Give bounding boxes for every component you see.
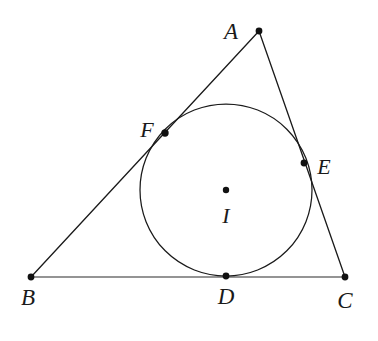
tangent-points	[161, 129, 307, 279]
triangle-sides	[31, 31, 345, 277]
point-b-dot	[28, 274, 35, 281]
label-f: F	[140, 119, 153, 141]
label-c: C	[337, 289, 352, 312]
label-a: A	[224, 20, 238, 43]
point-c-dot	[342, 274, 349, 281]
label-b: B	[21, 286, 35, 309]
vertex-points	[28, 28, 349, 281]
point-a-dot	[256, 28, 263, 35]
label-d: D	[218, 285, 235, 308]
point-e-dot	[301, 160, 308, 167]
label-e: E	[317, 156, 330, 178]
side-ab-line	[31, 31, 259, 277]
point-d-dot	[223, 273, 230, 280]
point-f-dot	[161, 129, 168, 136]
side-ac-line	[259, 31, 345, 277]
label-i: I	[222, 205, 229, 227]
geometry-figure: A B C D E F I	[0, 0, 378, 341]
point-i-incenter-dot	[223, 187, 229, 193]
